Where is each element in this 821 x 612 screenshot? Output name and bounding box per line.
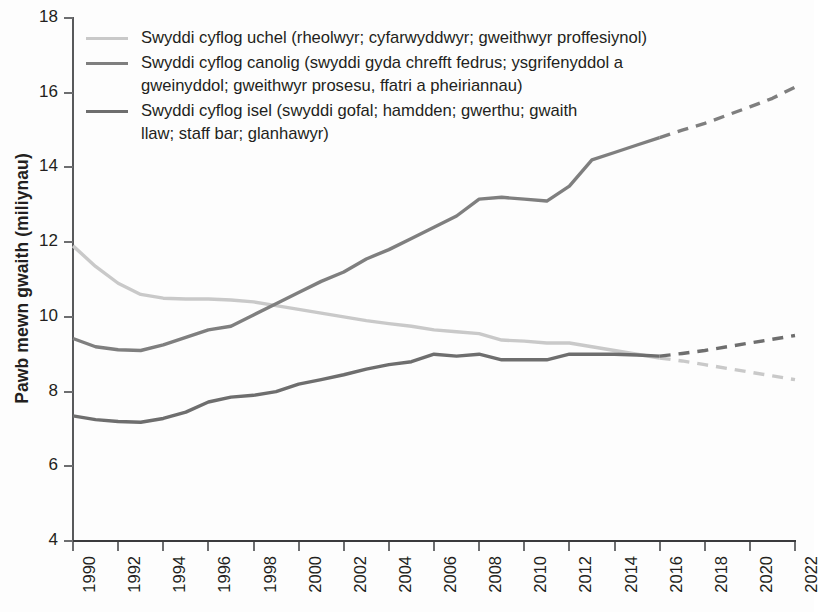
- x-tick-label: 2004: [396, 556, 415, 593]
- x-tick-mark: [794, 542, 796, 551]
- x-tick-mark: [433, 542, 435, 551]
- legend-swatch-low: [86, 110, 128, 113]
- y-tick-mark: [64, 166, 73, 168]
- x-tick-mark: [343, 542, 345, 551]
- legend-swatch-high: [86, 37, 128, 40]
- x-tick-label: 2008: [486, 556, 505, 593]
- x-tick-label: 2018: [712, 556, 731, 593]
- y-tick-label: 16: [0, 82, 58, 102]
- legend-swatch-mid: [86, 62, 128, 65]
- series-line-low-forecast: [660, 336, 795, 357]
- x-tick-label: 2022: [802, 556, 821, 593]
- legend-label-high: Swyddi cyflog uchel (rheolwyr; cyfarwydd…: [141, 26, 801, 50]
- legend-item-mid[interactable]: Swyddi cyflog canolig (swyddi gyda chref…: [86, 51, 786, 98]
- legend-label-low: Swyddi cyflog isel (swyddi gofal; hamdde…: [141, 99, 601, 146]
- x-tick-mark: [253, 542, 255, 551]
- x-tick-label: 1994: [170, 556, 189, 593]
- y-tick-mark: [64, 241, 73, 243]
- y-tick-mark: [64, 92, 73, 94]
- series-line-mid-actual: [73, 138, 660, 351]
- x-tick-label: 2010: [531, 556, 550, 593]
- y-tick-mark: [64, 391, 73, 393]
- y-tick-label: 14: [0, 156, 58, 176]
- x-tick-label: 2016: [667, 556, 686, 593]
- x-tick-label: 2006: [441, 556, 460, 593]
- x-tick-mark: [117, 542, 119, 551]
- legend-label-mid: Swyddi cyflog canolig (swyddi gyda chref…: [141, 51, 681, 98]
- x-tick-mark: [568, 542, 570, 551]
- x-tick-mark: [614, 542, 616, 551]
- x-tick-label: 2014: [622, 556, 641, 593]
- chart-legend: Swyddi cyflog uchel (rheolwyr; cyfarwydd…: [86, 26, 786, 147]
- y-tick-label: 18: [0, 7, 58, 27]
- x-tick-label: 2002: [351, 556, 370, 593]
- y-tick-mark: [64, 17, 73, 19]
- x-tick-mark: [523, 542, 525, 551]
- x-tick-mark: [659, 542, 661, 551]
- x-tick-mark: [704, 542, 706, 551]
- x-tick-label: 2012: [576, 556, 595, 593]
- x-tick-mark: [749, 542, 751, 551]
- x-tick-mark: [207, 542, 209, 551]
- x-tick-label: 1996: [215, 556, 234, 593]
- x-tick-label: 2020: [757, 556, 776, 593]
- y-tick-label: 12: [0, 231, 58, 251]
- series-line-low-actual: [73, 354, 660, 422]
- legend-item-high[interactable]: Swyddi cyflog uchel (rheolwyr; cyfarwydd…: [86, 26, 786, 50]
- x-tick-mark: [72, 542, 74, 551]
- x-tick-label: 2000: [306, 556, 325, 593]
- y-tick-label: 8: [0, 381, 58, 401]
- x-tick-label: 1992: [125, 556, 144, 593]
- legend-item-low[interactable]: Swyddi cyflog isel (swyddi gofal; hamdde…: [86, 99, 786, 146]
- series-line-high-forecast: [660, 358, 795, 380]
- x-tick-mark: [478, 542, 480, 551]
- y-tick-label: 4: [0, 530, 58, 550]
- x-tick-mark: [388, 542, 390, 551]
- x-tick-label: 1990: [80, 556, 99, 593]
- x-tick-mark: [162, 542, 164, 551]
- y-tick-label: 10: [0, 306, 58, 326]
- y-tick-mark: [64, 465, 73, 467]
- x-tick-mark: [298, 542, 300, 551]
- x-tick-label: 1998: [261, 556, 280, 593]
- series-line-high-actual: [73, 246, 660, 358]
- y-tick-label: 6: [0, 455, 58, 475]
- y-tick-mark: [64, 316, 73, 318]
